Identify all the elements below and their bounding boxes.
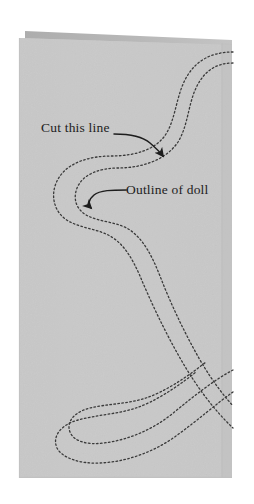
figure-canvas: Cut this line Outline of doll bbox=[0, 0, 254, 504]
annotation-label-outline-of-doll: Outline of doll bbox=[126, 183, 209, 197]
doll-pattern-diagram bbox=[0, 0, 254, 504]
annotation-label-cut-this-line: Cut this line bbox=[41, 121, 110, 135]
paper-crease-shadow bbox=[222, 44, 232, 478]
paper-texture-overlay bbox=[19, 38, 232, 478]
